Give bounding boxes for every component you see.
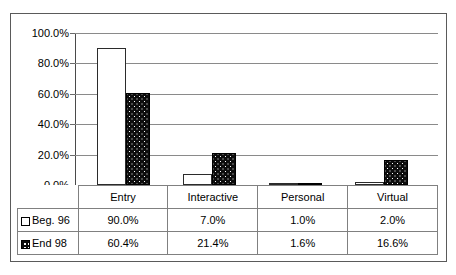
table-header-row: Entry Interactive Personal Virtual xyxy=(18,186,438,209)
bar-end98-virtual xyxy=(384,160,408,185)
table-cell-end98-virtual: 16.6% xyxy=(348,232,438,255)
table-cell-beg96-entry: 90.0% xyxy=(78,209,168,232)
bar-beg96-interactive xyxy=(183,174,212,185)
y-axis-tick-label: 80.0% xyxy=(38,58,69,69)
y-axis-tick-label: 40.0% xyxy=(38,119,69,130)
table-header-interactive: Interactive xyxy=(168,186,258,209)
table-cell-end98-entry: 60.4% xyxy=(78,232,168,255)
table-header-virtual: Virtual xyxy=(348,186,438,209)
plot-area xyxy=(75,33,438,185)
table-cell-end98-interactive: 21.4% xyxy=(168,232,258,255)
table-corner-cell xyxy=(18,186,79,209)
data-table: Entry Interactive Personal Virtual Beg. … xyxy=(17,185,438,255)
legend-swatch-filled-dotted-square-icon xyxy=(21,240,30,249)
table-cell-beg96-personal: 1.0% xyxy=(258,209,348,232)
chart-container: 100.0% 80.0% 60.0% 40.0% 20.0% 0.0% xyxy=(0,0,456,275)
gridline-80 xyxy=(75,63,438,64)
table-header-personal: Personal xyxy=(258,186,348,209)
table-row: End 98 60.4% 21.4% 1.6% 16.6% xyxy=(18,232,438,255)
legend-item-beg96: Beg. 96 xyxy=(18,209,79,232)
table-row: Beg. 96 90.0% 7.0% 1.0% 2.0% xyxy=(18,209,438,232)
legend-label-end98: End 98 xyxy=(32,237,67,249)
table-cell-end98-personal: 1.6% xyxy=(258,232,348,255)
legend-item-end98: End 98 xyxy=(18,232,79,255)
table-header-entry: Entry xyxy=(78,186,168,209)
y-axis-tick-label: 100.0% xyxy=(32,28,69,39)
y-axis-tick-label: 60.0% xyxy=(38,89,69,100)
bar-beg96-entry xyxy=(97,48,126,185)
bar-end98-entry xyxy=(126,93,150,185)
bar-end98-interactive xyxy=(212,153,236,186)
table-cell-beg96-virtual: 2.0% xyxy=(348,209,438,232)
legend-swatch-open-square-icon xyxy=(21,217,30,226)
table-cell-beg96-interactive: 7.0% xyxy=(168,209,258,232)
y-axis-tick-label: 20.0% xyxy=(38,150,69,161)
gridline-100 xyxy=(75,33,438,34)
legend-label-beg96: Beg. 96 xyxy=(32,214,70,226)
